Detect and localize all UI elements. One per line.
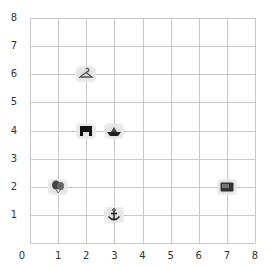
- y-tick-label: 8: [6, 12, 22, 24]
- grid-line-vertical: [199, 18, 200, 243]
- x-tick-label: 5: [163, 250, 179, 262]
- stage-icon[interactable]: [76, 123, 96, 139]
- anchor-icon[interactable]: [104, 207, 124, 223]
- boat-icon[interactable]: [104, 123, 124, 139]
- grid-line-vertical: [227, 18, 228, 243]
- x-tick-label: 1: [50, 250, 66, 262]
- y-tick-label: 2: [6, 181, 22, 193]
- grid-line-vertical: [255, 18, 256, 243]
- grid-plot: [30, 18, 255, 243]
- hanger-icon[interactable]: [76, 66, 96, 82]
- y-tick-label: 1: [6, 209, 22, 221]
- x-tick-label: 7: [219, 250, 235, 262]
- grid-line-vertical: [171, 18, 172, 243]
- y-tick-label: 5: [6, 96, 22, 108]
- balloons-icon[interactable]: [48, 179, 68, 195]
- y-tick-label: 6: [6, 68, 22, 80]
- y-tick-label: 7: [6, 40, 22, 52]
- x-tick-label: 2: [78, 250, 94, 262]
- grid-line-horizontal: [30, 215, 255, 216]
- x-tick-label: 6: [191, 250, 207, 262]
- x-tick-label: 0: [14, 250, 30, 262]
- x-tick-label: 3: [106, 250, 122, 262]
- y-tick-label: 3: [6, 153, 22, 165]
- wallet-icon[interactable]: [217, 179, 237, 195]
- grid-line-horizontal: [30, 131, 255, 132]
- grid-line-horizontal: [30, 243, 255, 244]
- y-tick-label: 4: [6, 125, 22, 137]
- grid-line-horizontal: [30, 159, 255, 160]
- x-tick-label: 8: [247, 250, 263, 262]
- x-tick-label: 4: [135, 250, 151, 262]
